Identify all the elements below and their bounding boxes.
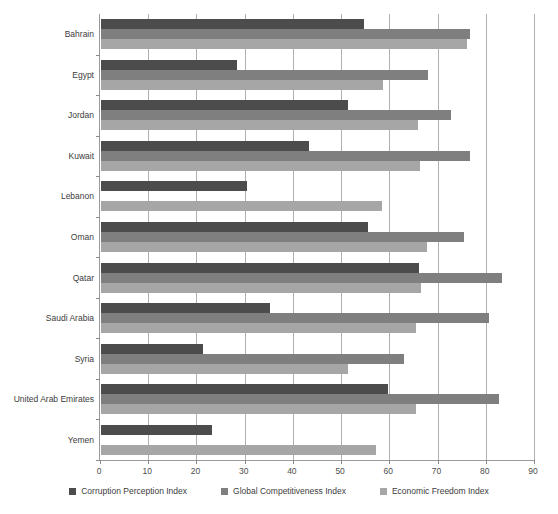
bar-global-competitiveness-index — [101, 110, 451, 120]
legend-swatch-icon — [69, 488, 76, 495]
bar-economic-freedom-index — [101, 201, 382, 211]
bar-economic-freedom-index — [101, 80, 383, 90]
bar-global-competitiveness-index — [101, 232, 464, 242]
x-axis-tick — [196, 460, 197, 464]
x-axis-tick — [148, 460, 149, 464]
x-gridline — [534, 14, 535, 460]
y-axis-category-label: United Arab Emirates — [14, 394, 100, 404]
x-axis-tick-label: 10 — [142, 466, 151, 476]
bar-corruption-perception-index — [101, 222, 368, 232]
x-axis-tick-label: 80 — [480, 466, 489, 476]
x-axis-tick — [245, 460, 246, 464]
bar-corruption-perception-index — [101, 384, 388, 394]
x-axis-tick — [438, 460, 439, 464]
bar-economic-freedom-index — [101, 39, 467, 49]
bar-global-competitiveness-index — [101, 29, 470, 39]
plot-area: BahrainEgyptJordanKuwaitLebanonOmanQatar… — [99, 14, 534, 461]
bar-corruption-perception-index — [101, 263, 419, 273]
legend-label: Global Competitiveness Index — [233, 486, 346, 496]
y-axis-category-label: Lebanon — [61, 191, 100, 201]
chart-category-row: Lebanon — [100, 176, 534, 217]
legend-label: Economic Freedom Index — [392, 486, 489, 496]
bar-global-competitiveness-index — [101, 273, 502, 283]
bar-corruption-perception-index — [101, 19, 364, 29]
bar-economic-freedom-index — [101, 364, 348, 374]
chart-category-row: Qatar — [100, 257, 534, 298]
legend-label: Corruption Perception Index — [81, 486, 187, 496]
legend-swatch-icon — [221, 488, 228, 495]
chart-category-row: United Arab Emirates — [100, 379, 534, 420]
bar-economic-freedom-index — [101, 283, 421, 293]
y-axis-tick — [96, 460, 100, 461]
chart-category-row: Oman — [100, 217, 534, 258]
bar-global-competitiveness-index — [101, 151, 470, 161]
bar-corruption-perception-index — [101, 181, 247, 191]
bar-economic-freedom-index — [101, 323, 416, 333]
bar-economic-freedom-index — [101, 161, 420, 171]
y-axis-category-label: Jordan — [68, 110, 100, 120]
x-axis-tick-label: 0 — [97, 466, 102, 476]
bar-economic-freedom-index — [101, 120, 418, 130]
legend-item[interactable]: Economic Freedom Index — [380, 486, 489, 496]
chart-category-row: Saudi Arabia — [100, 298, 534, 339]
x-axis-tick — [534, 460, 535, 464]
y-axis-category-label: Qatar — [73, 273, 100, 283]
bar-economic-freedom-index — [101, 404, 416, 414]
x-axis-tick — [389, 460, 390, 464]
y-axis-category-label: Saudi Arabia — [46, 313, 100, 323]
y-axis-category-label: Kuwait — [68, 151, 100, 161]
y-axis-category-label: Syria — [75, 354, 100, 364]
x-axis-tick-label: 60 — [384, 466, 393, 476]
y-axis-category-label: Oman — [71, 232, 100, 242]
x-axis-tick-label: 30 — [239, 466, 248, 476]
x-axis-tick — [100, 460, 101, 464]
bar-corruption-perception-index — [101, 303, 270, 313]
x-axis-tick-label: 50 — [335, 466, 344, 476]
x-axis-tick — [486, 460, 487, 464]
y-axis-category-label: Yemen — [68, 435, 100, 445]
bar-global-competitiveness-index — [101, 70, 428, 80]
bar-corruption-perception-index — [101, 100, 348, 110]
x-axis-tick-label: 70 — [432, 466, 441, 476]
x-axis-tick — [341, 460, 342, 464]
plot-wrapper: BahrainEgyptJordanKuwaitLebanonOmanQatar… — [0, 0, 558, 470]
bar-corruption-perception-index — [101, 60, 237, 70]
x-axis-tick-label: 40 — [287, 466, 296, 476]
bar-corruption-perception-index — [101, 141, 309, 151]
bar-economic-freedom-index — [101, 445, 376, 455]
bar-chart: BahrainEgyptJordanKuwaitLebanonOmanQatar… — [0, 0, 558, 514]
chart-category-row: Jordan — [100, 95, 534, 136]
chart-category-row: Yemen — [100, 419, 534, 460]
x-axis-tick-label: 90 — [528, 466, 537, 476]
chart-category-row: Egypt — [100, 55, 534, 96]
chart-category-row: Kuwait — [100, 136, 534, 177]
legend-item[interactable]: Global Competitiveness Index — [221, 486, 346, 496]
chart-category-row: Syria — [100, 338, 534, 379]
legend-swatch-icon — [380, 488, 387, 495]
bar-corruption-perception-index — [101, 425, 212, 435]
y-axis-category-label: Egypt — [72, 70, 100, 80]
bar-corruption-perception-index — [101, 344, 203, 354]
bar-global-competitiveness-index — [101, 354, 404, 364]
y-axis-category-label: Bahrain — [65, 29, 100, 39]
legend-item[interactable]: Corruption Perception Index — [69, 486, 187, 496]
bar-economic-freedom-index — [101, 242, 427, 252]
bar-global-competitiveness-index — [101, 394, 499, 404]
x-axis-tick-label: 20 — [191, 466, 200, 476]
x-axis-tick — [293, 460, 294, 464]
chart-category-row: Bahrain — [100, 14, 534, 55]
chart-legend: Corruption Perception IndexGlobal Compet… — [0, 486, 558, 496]
bar-global-competitiveness-index — [101, 313, 489, 323]
